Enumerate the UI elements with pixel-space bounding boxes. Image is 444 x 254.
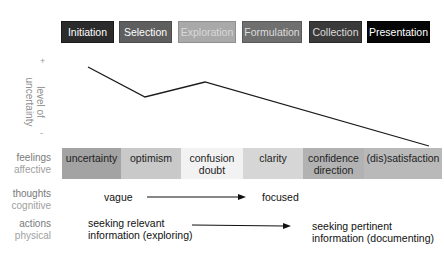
row-label-line1: feelings [8,152,51,164]
feeling-line2: doubt [190,164,235,176]
row-label-line2: affective [8,164,51,176]
feeling-confusion-doubt: confusion doubt [181,148,243,179]
feeling-confidence-direction: confidence direction [303,148,364,179]
feeling-line1: confidence [308,152,359,164]
actions-from: seeking relevant information (exploring) [88,217,192,241]
feeling-dissatisfaction: (dis)satisfaction [364,148,442,179]
row-label-feelings: feelings affective [8,152,51,176]
row-label-actions: actions physical [8,218,51,242]
feeling-optimism: optimism [121,148,181,179]
feeling-uncertainty: uncertainty [62,148,121,179]
actions-to-line2: information (documenting) [312,232,434,244]
actions-from-line2: information (exploring) [88,229,192,241]
uncertainty-chart [0,0,444,254]
actions-arrow [192,223,291,229]
feeling-line1: (dis)satisfaction [367,152,440,164]
row-label-line2: cognitive [8,200,51,212]
thoughts-to: focused [262,191,299,203]
actions-to-line1: seeking pertinent [312,220,434,232]
feeling-line1: uncertainty [66,152,117,164]
thoughts-from: vague [104,191,133,203]
actions-from-line1: seeking relevant [88,217,192,229]
feeling-line1: optimism [130,152,172,164]
feeling-line1: confusion [190,152,235,164]
thoughts-arrow [147,194,246,200]
feeling-clarity: clarity [243,148,303,179]
uncertainty-line [88,67,429,146]
row-label-line1: actions [8,218,51,230]
feeling-line1: clarity [259,152,286,164]
actions-to: seeking pertinent information (documenti… [312,220,434,244]
row-label-thoughts: thoughts cognitive [8,188,51,212]
row-label-line2: physical [8,230,51,242]
row-label-line1: thoughts [8,188,51,200]
feelings-band: uncertainty optimism confusion doubt cla… [62,148,442,179]
feeling-line2: direction [308,164,359,176]
